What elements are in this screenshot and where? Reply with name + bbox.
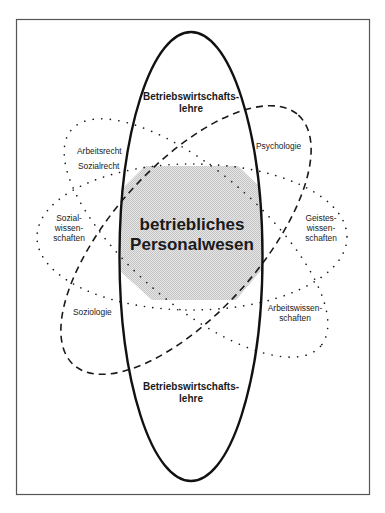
label-arbeitswissenschaften: Arbeitswissen- schaften — [262, 303, 328, 323]
bwl-top-label: Betriebswirtschafts- lehre — [131, 91, 251, 115]
label-geisteswissenschaften-line1: Geistes- — [298, 213, 344, 223]
label-sozialwissenschaften-line2: wissen- — [46, 223, 92, 233]
label-soziologie: Soziologie — [73, 307, 112, 317]
bwl-top-label-line1: Betriebswirtschafts- — [131, 91, 251, 103]
label-geisteswissenschaften-line3: schaften — [298, 233, 344, 243]
center-label-line2: Personalwesen — [121, 235, 263, 255]
bwl-bottom-label: Betriebswirtschafts- lehre — [131, 381, 251, 405]
label-arbeitsrecht: Arbeitsrecht — [77, 146, 122, 156]
diagram-canvas — [0, 0, 385, 513]
bwl-bottom-label-line2: lehre — [131, 393, 251, 405]
label-geisteswissenschaften-line2: wissen- — [298, 223, 344, 233]
label-sozialwissenschaften-line1: Sozial- — [46, 213, 92, 223]
label-arbeitswissenschaften-line1: Arbeitswissen- — [262, 303, 328, 313]
center-label: betriebliches Personalwesen — [121, 215, 263, 254]
label-psychologie: Psychologie — [256, 141, 301, 151]
label-geisteswissenschaften: Geistes- wissen- schaften — [298, 213, 344, 243]
label-sozialrecht: Sozialrecht — [78, 161, 119, 171]
label-sozialwissenschaften: Sozial- wissen- schaften — [46, 213, 92, 243]
center-label-line1: betriebliches — [121, 215, 263, 235]
label-arbeitswissenschaften-line2: schaften — [262, 313, 328, 323]
label-sozialwissenschaften-line3: schaften — [46, 233, 92, 243]
bwl-top-label-line2: lehre — [131, 103, 251, 115]
bwl-bottom-label-line1: Betriebswirtschafts- — [131, 381, 251, 393]
